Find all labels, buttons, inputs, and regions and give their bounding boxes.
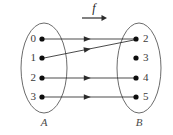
element-label-codomain-5: 5: [143, 90, 149, 102]
element-label-domain-0: 0: [31, 32, 37, 44]
mapping-arrow-head-icon-3-to-5: [84, 94, 91, 99]
element-dot-domain-1: [39, 55, 44, 60]
function-name-label: f: [92, 1, 97, 15]
set-name-label-A: A: [40, 116, 48, 128]
set-ellipse-domain: [21, 23, 67, 113]
element-dot-domain-2: [39, 75, 44, 80]
element-label-codomain-3: 3: [143, 51, 149, 63]
function-arrow-head-icon: [102, 15, 108, 21]
element-dot-codomain-2: [133, 36, 138, 41]
element-label-codomain-2: 2: [143, 32, 149, 44]
element-dot-codomain-5: [133, 94, 138, 99]
element-dot-domain-0: [39, 36, 44, 41]
mapping-arrow-head-icon-2-to-4: [84, 75, 91, 80]
element-dot-group: [39, 36, 138, 99]
element-label-group: 01232345: [31, 32, 150, 102]
element-label-domain-3: 3: [31, 90, 37, 102]
diagram-canvas: f 01232345 AB: [0, 0, 173, 135]
set-name-label-group: AB: [40, 116, 143, 128]
element-dot-domain-3: [39, 94, 44, 99]
element-dot-codomain-3: [133, 55, 138, 60]
set-ellipse-codomain: [117, 23, 161, 113]
set-name-label-B: B: [136, 116, 143, 128]
mapping-diagram-figure: f 01232345 AB: [0, 0, 173, 135]
element-label-codomain-4: 4: [143, 71, 149, 83]
mapping-arrow-head-icon-0-to-2: [84, 36, 91, 41]
element-label-domain-1: 1: [31, 51, 37, 63]
function-arrow-group: f: [82, 1, 107, 21]
mapping-arrow-group: [44, 36, 134, 99]
element-label-domain-2: 2: [31, 71, 37, 83]
element-dot-codomain-4: [133, 75, 138, 80]
mapping-arrow-head-icon-1-to-2: [83, 47, 90, 52]
